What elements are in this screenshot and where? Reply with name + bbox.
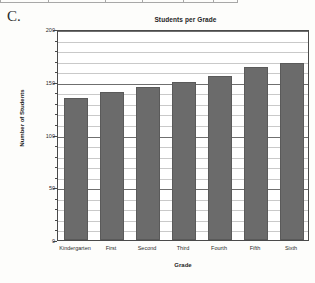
y-tick-minor — [55, 51, 57, 52]
bar[interactable] — [136, 87, 159, 240]
y-tick-minor — [55, 167, 57, 168]
y-tick-minor — [55, 146, 57, 147]
bar[interactable] — [100, 92, 123, 240]
bar-chart-figure: Students per Grade Number of Students 05… — [0, 0, 315, 283]
y-tick-minor — [55, 41, 57, 42]
y-tick-minor — [55, 230, 57, 231]
x-tick-label: Sixth — [285, 245, 297, 251]
x-tick-label: Second — [138, 245, 157, 251]
x-axis-title: Grade — [57, 262, 309, 268]
y-tick-minor — [55, 104, 57, 105]
y-tick-label: 100 — [15, 133, 55, 139]
y-tick-minor — [55, 220, 57, 221]
bar[interactable] — [280, 63, 303, 240]
y-tick-minor — [55, 199, 57, 200]
y-tick-minor — [55, 125, 57, 126]
y-tick-minor — [55, 157, 57, 158]
x-tick-label: Kindergarten — [59, 245, 91, 251]
y-tick-label: 0 — [15, 238, 55, 244]
y-tick-minor — [55, 72, 57, 73]
y-tick-minor — [55, 93, 57, 94]
y-tick-label: 150 — [15, 80, 55, 86]
x-tick-label: First — [106, 245, 117, 251]
bar[interactable] — [64, 98, 87, 240]
bar[interactable] — [208, 76, 231, 240]
chart-title: Students per Grade — [57, 16, 314, 23]
x-tick-label: Fifth — [250, 245, 261, 251]
bar[interactable] — [172, 82, 195, 240]
gridline-minor — [58, 63, 308, 64]
plot-area — [57, 30, 309, 241]
y-tick-minor — [55, 178, 57, 179]
gridline-minor — [58, 73, 308, 74]
x-tick-label: Fourth — [211, 245, 227, 251]
x-tick-label: Third — [177, 245, 190, 251]
gridline-major — [58, 31, 308, 32]
y-tick-minor — [55, 62, 57, 63]
y-tick-minor — [55, 114, 57, 115]
y-tick-label: 50 — [15, 185, 55, 191]
bar[interactable] — [244, 67, 267, 240]
gridline-minor — [58, 42, 308, 43]
y-tick-minor — [55, 209, 57, 210]
gridline-minor — [58, 52, 308, 53]
y-tick-label: 200 — [15, 27, 55, 33]
